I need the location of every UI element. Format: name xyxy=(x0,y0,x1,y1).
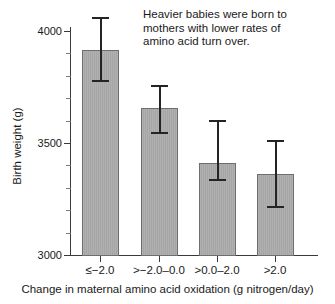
y-tick-minor-3300 xyxy=(66,188,71,189)
bar-chart-figure: Birth weight (g) 4000 3500 3000 xyxy=(0,0,335,304)
y-tick-label-4000: 4000 xyxy=(18,26,62,37)
y-tick-label-3500: 3500 xyxy=(18,138,62,149)
y-tick-label-wrap-3000: 3000 xyxy=(14,250,62,261)
x-tick-3 xyxy=(275,256,276,262)
y-tick-minor-3900 xyxy=(66,53,71,54)
error-cap-bottom xyxy=(209,179,226,181)
error-cap-bottom xyxy=(151,132,168,134)
y-tick-label-3000: 3000 xyxy=(18,250,62,261)
y-tick-major-4000 xyxy=(64,31,71,32)
x-axis-title: Change in maternal amino acid oxidation … xyxy=(0,283,335,296)
y-tick-minor-3200 xyxy=(66,210,71,211)
error-stem xyxy=(159,85,161,134)
y-tick-minor-3400 xyxy=(66,165,71,166)
y-axis-line xyxy=(70,27,71,256)
y-tick-minor-3800 xyxy=(66,76,71,77)
y-tick-minor-3600 xyxy=(66,121,71,122)
y-tick-label-wrap-4000: 4000 xyxy=(14,26,62,37)
error-stem xyxy=(100,17,102,82)
error-cap-bottom xyxy=(92,80,109,82)
x-tick-1 xyxy=(159,256,160,262)
error-bar-category-1 xyxy=(151,85,168,134)
x-tick-2 xyxy=(217,256,218,262)
error-bar-category-3 xyxy=(267,140,284,208)
error-stem xyxy=(275,140,277,208)
x-tick-label-3: >2.0 xyxy=(235,264,315,277)
y-tick-label-wrap-3500: 3500 xyxy=(14,138,62,149)
y-tick-minor-3700 xyxy=(66,98,71,99)
error-cap-bottom xyxy=(267,206,284,208)
y-tick-major-3500 xyxy=(64,143,71,144)
x-tick-0 xyxy=(100,256,101,262)
error-bar-category-0 xyxy=(92,17,109,82)
error-stem xyxy=(217,120,219,181)
error-bar-category-2 xyxy=(209,120,226,181)
y-tick-major-3000 xyxy=(64,255,71,256)
chart-annotation: Heavier babies were born to mothers with… xyxy=(143,8,328,49)
y-tick-minor-3100 xyxy=(66,233,71,234)
